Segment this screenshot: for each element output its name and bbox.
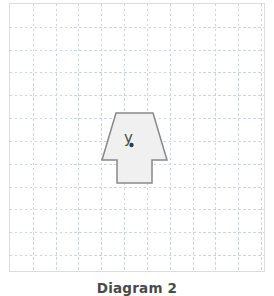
figure-shape-layer: y — [0, 0, 274, 296]
point-marker-y-icon — [129, 143, 133, 147]
diagram-caption: Diagram 2 — [0, 280, 274, 296]
trapezoid-rectangle-shape — [102, 113, 167, 183]
diagram-page: y Diagram 2 — [0, 0, 274, 296]
